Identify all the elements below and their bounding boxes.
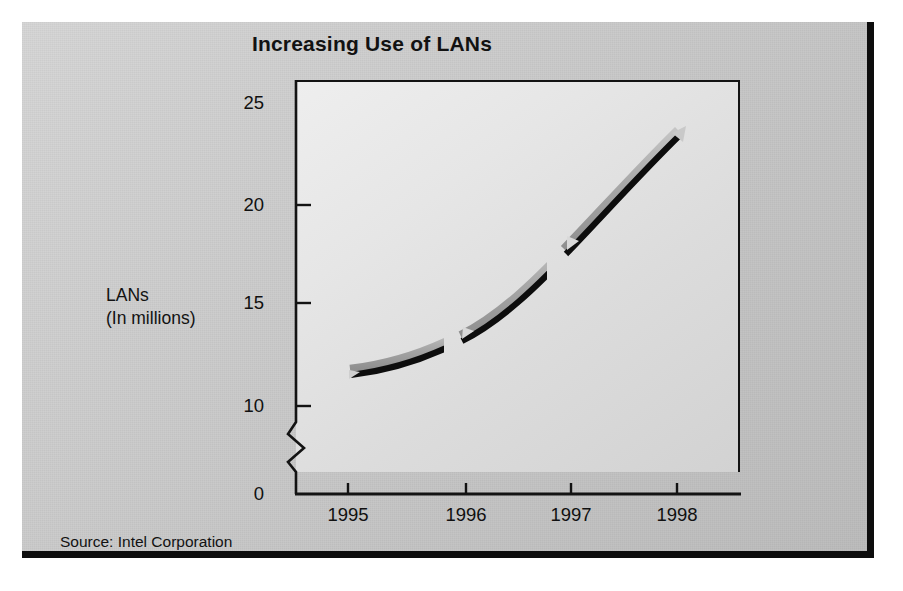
page-title: Increasing Use of LANs (22, 32, 722, 56)
y-tick-label-15: 15 (218, 292, 264, 314)
source-note: Source: Intel Corporation (60, 533, 232, 551)
y-tick-label-10: 10 (218, 395, 264, 417)
figure-frame: Increasing Use of LANs LANs (In millions… (22, 22, 874, 558)
x-tick-label-1997: 1997 (531, 504, 611, 526)
y-tick-label-25: 25 (218, 92, 264, 114)
x-tick-label-1995: 1995 (308, 504, 388, 526)
x-tick-label-1998: 1998 (637, 504, 717, 526)
x-tick-label-1996: 1996 (426, 504, 506, 526)
x-axis-ticks (348, 483, 677, 494)
y-tick-label-0: 0 (218, 483, 264, 505)
y-tick-label-20: 20 (218, 194, 264, 216)
plot-area (296, 80, 740, 472)
